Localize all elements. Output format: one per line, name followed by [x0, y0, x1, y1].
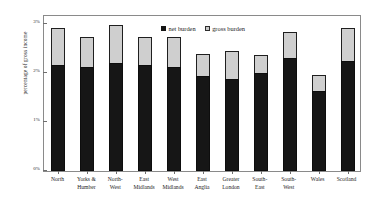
x-axis-labels: NorthYorks &HumberNorth-WestEastMidlands…	[43, 176, 361, 206]
bar-segment-net-burden[interactable]	[138, 65, 152, 171]
bar-segment-net-burden[interactable]	[312, 91, 326, 171]
bar-group[interactable]	[341, 28, 355, 171]
y-axis-tick-label: 2%	[33, 68, 40, 73]
x-axis-tick	[348, 171, 349, 174]
legend-label-gross-burden: gross burden	[212, 25, 245, 32]
bar-segment-net-burden[interactable]	[51, 65, 65, 171]
y-axis-tick: 0%	[43, 170, 47, 171]
legend-item-net-burden: net burden	[161, 25, 196, 32]
y-axis-tick: 3%	[43, 23, 47, 24]
y-axis-tick: 1%	[43, 121, 47, 122]
bar-segment-gross-burden[interactable]	[254, 55, 268, 73]
bar-group[interactable]	[138, 37, 152, 171]
y-axis-tick-label: 3%	[33, 19, 40, 24]
bar-group[interactable]	[167, 37, 181, 171]
bar-segment-net-burden[interactable]	[167, 67, 181, 171]
bar-segment-gross-burden[interactable]	[341, 28, 355, 61]
legend-swatch-gross-burden-icon	[205, 26, 210, 31]
legend-item-gross-burden: gross burden	[205, 25, 245, 32]
bar-group[interactable]	[109, 25, 123, 171]
chart-legend: net burden gross burden	[44, 25, 362, 32]
bar-segment-net-burden[interactable]	[254, 73, 268, 171]
x-axis-tick	[203, 171, 204, 174]
x-axis-tick	[261, 171, 262, 174]
bar-group[interactable]	[80, 37, 94, 171]
bar-segment-net-burden[interactable]	[283, 58, 297, 171]
x-axis-label-line: Scotland	[327, 176, 367, 184]
x-axis-tick	[174, 171, 175, 174]
y-axis-tick-label: 1%	[33, 117, 40, 122]
bar-segment-gross-burden[interactable]	[312, 75, 326, 91]
x-axis-tick	[290, 171, 291, 174]
bar-segment-gross-burden[interactable]	[283, 32, 297, 58]
bar-segment-gross-burden[interactable]	[196, 54, 210, 76]
bar-segment-net-burden[interactable]	[80, 67, 94, 171]
bar-group[interactable]	[254, 55, 268, 171]
bar-group[interactable]	[51, 28, 65, 171]
bar-segment-net-burden[interactable]	[225, 79, 239, 171]
bar-segment-gross-burden[interactable]	[109, 25, 123, 63]
bar-segment-gross-burden[interactable]	[80, 37, 94, 67]
bar-segment-gross-burden[interactable]	[167, 37, 181, 67]
bar-segment-gross-burden[interactable]	[51, 28, 65, 65]
y-axis-tick-label: 0%	[33, 166, 40, 171]
plot-area: net burden gross burden 0%1%2%3%	[43, 15, 361, 172]
bar-chart-figure: percentage of gross income net burden gr…	[0, 0, 374, 216]
legend-swatch-net-burden-icon	[161, 26, 166, 31]
x-axis-tick	[87, 171, 88, 174]
x-axis-tick	[319, 171, 320, 174]
x-axis-tick	[232, 171, 233, 174]
y-axis-title: percentage of gross income	[22, 1, 28, 126]
bar-group[interactable]	[283, 32, 297, 171]
bar-segment-gross-burden[interactable]	[225, 51, 239, 79]
x-axis-label: Scotland	[327, 176, 367, 184]
bar-segment-net-burden[interactable]	[341, 61, 355, 171]
x-axis-tick	[58, 171, 59, 174]
x-axis-tick	[116, 171, 117, 174]
bar-segment-net-burden[interactable]	[196, 76, 210, 171]
legend-label-net-burden: net burden	[169, 25, 196, 32]
bar-group[interactable]	[312, 75, 326, 171]
x-axis-label-line: West	[269, 184, 309, 192]
y-axis-tick: 2%	[43, 72, 47, 73]
bar-segment-net-burden[interactable]	[109, 63, 123, 171]
x-axis-tick	[145, 171, 146, 174]
bar-segment-gross-burden[interactable]	[138, 37, 152, 64]
bar-group[interactable]	[225, 51, 239, 171]
bar-group[interactable]	[196, 54, 210, 171]
